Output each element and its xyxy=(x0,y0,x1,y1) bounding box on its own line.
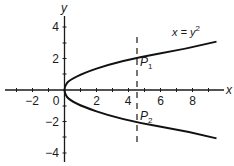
x-tick-label: 8 xyxy=(189,94,196,108)
parabola-diagram: −2 0 2 4 6 8 4 2 −2 −4 x y x = y2 P1 P2 xyxy=(0,0,234,166)
p1-main: P xyxy=(140,55,148,69)
curve-label-superscript: 2 xyxy=(196,24,201,33)
x-tick-label: −2 xyxy=(25,94,39,108)
y-tick-label: −2 xyxy=(45,115,59,129)
curve-label-main: x = y xyxy=(171,26,197,38)
x-axis-label: x xyxy=(225,83,233,97)
p1-subscript: 1 xyxy=(148,62,153,71)
point-label-p1: P1 xyxy=(140,55,153,71)
y-tick-label: −4 xyxy=(45,146,59,160)
curve-label: x = y2 xyxy=(171,24,201,38)
x-tick-label: 2 xyxy=(93,94,100,108)
y-tick-label: 2 xyxy=(52,52,59,66)
p2-subscript: 2 xyxy=(148,116,153,125)
p2-main: P xyxy=(140,109,148,123)
y-axis-label: y xyxy=(60,1,68,15)
point-label-p2: P2 xyxy=(140,109,153,125)
origin-label: 0 xyxy=(53,94,60,108)
x-tick-label: 4 xyxy=(125,94,132,108)
y-tick-label: 4 xyxy=(52,20,59,34)
x-tick-label: 6 xyxy=(157,94,164,108)
